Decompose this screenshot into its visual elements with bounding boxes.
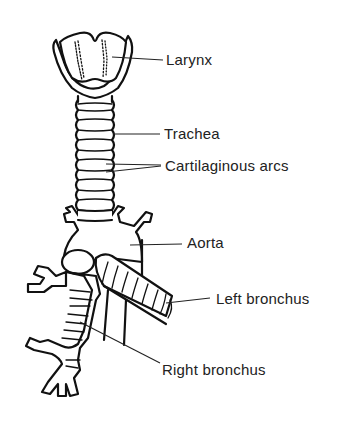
trachea-drawing <box>76 100 114 212</box>
label-larynx: Larynx <box>166 52 212 67</box>
larynx-drawing <box>53 33 132 102</box>
label-right-bronchus: Right bronchus <box>162 362 266 377</box>
label-cartilaginous-arcs: Cartilaginous arcs <box>165 158 289 173</box>
label-trachea: Trachea <box>164 126 220 141</box>
label-left-bronchus: Left bronchus <box>216 291 310 306</box>
label-aorta: Aorta <box>187 235 224 250</box>
